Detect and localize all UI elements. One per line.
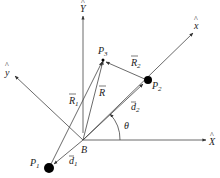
label-R: R	[98, 87, 105, 98]
theta-arc	[110, 114, 120, 140]
label-B: B	[81, 144, 87, 155]
svg-text:^: ^	[210, 131, 214, 140]
label-R1: R1	[68, 95, 79, 108]
point-P3	[102, 59, 105, 62]
label-R2: R2	[130, 57, 141, 70]
svg-text:^: ^	[81, 0, 85, 7]
point-P2	[144, 76, 152, 84]
label-d1: d1	[69, 155, 78, 168]
vector-diagram: Y ^ X ^ x ^ y ^ P3 P2 P1 B R R1 R2 d1 d2…	[0, 0, 220, 178]
svg-text:^: ^	[194, 15, 198, 24]
vector-d2	[83, 84, 143, 140]
svg-text:^: ^	[5, 61, 9, 70]
point-P1	[44, 163, 54, 173]
label-P2: P2	[151, 80, 162, 93]
vector-R	[83, 61, 103, 140]
label-P1: P1	[29, 157, 40, 170]
label-d2: d2	[131, 101, 140, 114]
local-y-axis	[15, 76, 83, 140]
label-P3: P3	[97, 45, 108, 58]
vector-R2	[106, 62, 147, 80]
label-theta: θ	[124, 120, 129, 131]
